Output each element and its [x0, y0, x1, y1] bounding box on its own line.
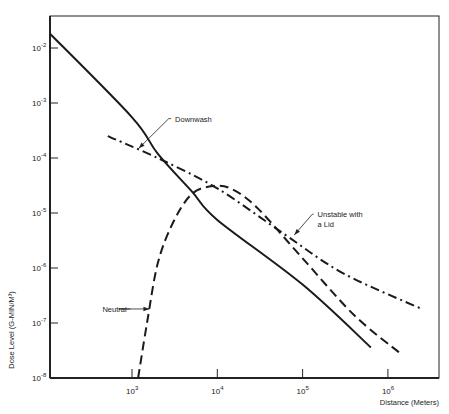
- y-tick-label: 10-4: [32, 152, 47, 163]
- x-tick-exponent: 5: [306, 385, 310, 391]
- x-axis-title: Distance (Meters): [380, 398, 440, 407]
- y-tick-exponent: -4: [41, 152, 47, 158]
- y-tick-exponent: -6: [41, 262, 47, 268]
- y-tick-label: 10-8: [32, 372, 47, 383]
- series-line-unstable-with-a-lid: [108, 136, 422, 309]
- x-tick-exponent: 4: [220, 385, 224, 391]
- x-ticks: 103104105106: [126, 369, 395, 396]
- y-tick-label: 10-6: [32, 262, 47, 273]
- y-tick-exponent: -7: [41, 317, 47, 323]
- dose-chart: 103104105106 10-210-310-410-510-610-710-…: [0, 0, 449, 414]
- annotation-label-neutral: Neutral: [102, 305, 127, 314]
- y-tick-exponent: -8: [41, 372, 47, 378]
- y-tick-label: 10-3: [32, 97, 47, 108]
- y-axis-title: Dose Level (G-MIN/M³): [7, 291, 16, 369]
- annotation-label-unstable-with-a-lid: a Lid: [318, 220, 334, 229]
- x-tick-label: 103: [126, 385, 139, 396]
- y-tick-exponent: -2: [41, 42, 47, 48]
- x-tick-exponent: 3: [135, 385, 139, 391]
- annotations: DownwashUnstable witha LidNeutral: [102, 115, 362, 314]
- y-tick-label: 10-7: [32, 317, 47, 328]
- annotation-label-downwash: Downwash: [175, 115, 212, 124]
- x-tick-label: 106: [382, 385, 395, 396]
- y-tick-exponent: -5: [41, 207, 47, 213]
- y-tick-label: 10-5: [32, 207, 47, 218]
- series-group: [50, 34, 422, 378]
- x-tick-label: 104: [211, 385, 224, 396]
- y-ticks: 10-210-310-410-510-610-710-8: [32, 42, 58, 383]
- annotation-arrowhead-neutral: [143, 307, 149, 311]
- y-tick-label: 10-2: [32, 42, 47, 53]
- y-tick-exponent: -3: [41, 97, 47, 103]
- x-tick-label: 105: [297, 385, 310, 396]
- plot-frame: [50, 16, 439, 378]
- annotation-label-unstable-with-a-lid: Unstable with: [318, 210, 363, 219]
- x-tick-exponent: 6: [391, 385, 395, 391]
- series-line-downwash: [50, 34, 371, 347]
